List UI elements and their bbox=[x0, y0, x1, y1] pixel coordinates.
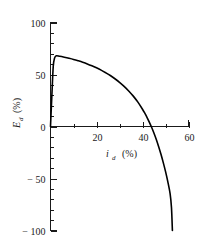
x-axis-title-unit: (%) bbox=[122, 148, 137, 160]
y-axis-title: E d (%) bbox=[11, 98, 25, 129]
y-tick-label: − 100 bbox=[22, 226, 45, 237]
chart-figure: 100500− 50− 100 204060 i d (%) E d (%) bbox=[0, 0, 207, 246]
x-tick-label: 60 bbox=[185, 132, 195, 143]
x-axis-group bbox=[51, 120, 190, 127]
y-axis-title-unit: (%) bbox=[11, 98, 23, 113]
x-axis-tick-labels: 204060 bbox=[93, 132, 195, 143]
x-axis-title-main: i bbox=[106, 148, 109, 159]
x-axis-title-subscript: d bbox=[112, 154, 116, 162]
y-axis-title-subscript: d bbox=[17, 117, 25, 121]
y-axis-tick-labels: 100500− 50− 100 bbox=[22, 18, 45, 237]
y-tick-label: 100 bbox=[31, 18, 46, 29]
x-tick-label: 20 bbox=[93, 132, 103, 143]
x-axis-title: i d (%) bbox=[106, 148, 137, 162]
y-tick-label: 50 bbox=[36, 70, 46, 81]
x-tick-label: 40 bbox=[139, 132, 149, 143]
y-tick-label: − 50 bbox=[27, 174, 45, 185]
data-curve bbox=[51, 56, 173, 231]
y-tick-label: 0 bbox=[41, 122, 46, 133]
chart-canvas: 100500− 50− 100 204060 i d (%) E d (%) bbox=[0, 0, 207, 246]
y-axis-title-main: E bbox=[11, 122, 22, 129]
